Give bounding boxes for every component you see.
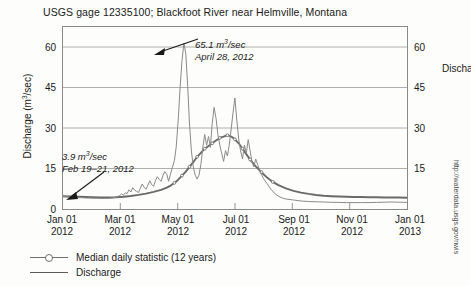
- legend-label-discharge: Discharge: [76, 267, 121, 278]
- x-tick-4-year: 2012: [265, 226, 323, 238]
- annotation-peak-arrow-icon: [150, 36, 200, 58]
- x-tick-6-label: Jan 01: [381, 214, 439, 226]
- x-tick-6-year: 2013: [381, 226, 439, 238]
- x-tick-6: Jan 01 2013: [381, 214, 439, 238]
- y-tick-right-45: 45: [414, 82, 440, 93]
- series-discharge: [63, 43, 407, 203]
- legend-marker-median-icon: [30, 252, 68, 264]
- legend-item-discharge: Discharge: [30, 265, 216, 280]
- x-tick-0-label: Jan 01: [33, 214, 91, 226]
- x-tick-marks: [120, 203, 349, 209]
- annotation-low-value: 3.9 m3/sec: [62, 148, 134, 163]
- annotation-peak-date: April 28, 2012: [195, 51, 254, 63]
- x-tick-2-year: 2012: [149, 226, 207, 238]
- legend: Median daily statistic (12 years) Discha…: [30, 250, 216, 280]
- x-tick-0-year: 2012: [33, 226, 91, 238]
- legend-marker-discharge-icon: [30, 267, 68, 279]
- x-tick-1-label: Mar 01: [91, 214, 149, 226]
- legend-item-median: Median daily statistic (12 years): [30, 250, 216, 265]
- x-tick-1: Mar 01 2012: [91, 214, 149, 238]
- annotation-peak-value-tail: /sec: [228, 39, 245, 50]
- y-tick-right-30: 30: [414, 123, 440, 134]
- annotation-peak-value: 65.1 m3/sec: [195, 36, 254, 51]
- x-tick-2: May 01 2012: [149, 214, 207, 238]
- y-tick-left-45: 45: [30, 82, 56, 93]
- source-url: http://waterdata.usgs.gov/nwis: [453, 160, 460, 254]
- y-tick-right-60: 60: [414, 42, 440, 53]
- chart-title: USGS gage 12335100; Blackfoot River near…: [43, 6, 347, 18]
- x-tick-4-label: Sep 01: [265, 214, 323, 226]
- x-tick-4: Sep 01 2012: [265, 214, 323, 238]
- x-tick-2-label: May 01: [149, 214, 207, 226]
- legend-label-median: Median daily statistic (12 years): [76, 252, 216, 263]
- x-tick-3-label: Jul 01: [207, 214, 265, 226]
- x-tick-5-label: Nov 01: [323, 214, 381, 226]
- x-tick-0: Jan 01 2012: [33, 214, 91, 238]
- annotation-low-value-base: 3.9 m: [62, 151, 86, 162]
- y-tick-left-60: 60: [30, 42, 56, 53]
- chart-root: USGS gage 12335100; Blackfoot River near…: [0, 0, 471, 286]
- x-tick-3: Jul 01 2012: [207, 214, 265, 238]
- y-tick-left-30: 30: [30, 123, 56, 134]
- y-axis-label-right: Discharge (m3/sec): [442, 62, 471, 74]
- annotation-peak: 65.1 m3/sec April 28, 2012: [195, 36, 254, 62]
- y-tick-right-15: 15: [414, 163, 440, 174]
- annotation-low-value-tail: /sec: [90, 151, 107, 162]
- y-tick-left-15: 15: [30, 163, 56, 174]
- x-tick-5: Nov 01 2012: [323, 214, 381, 238]
- annotation-low-arrow-icon: [60, 170, 108, 202]
- x-tick-3-year: 2012: [207, 226, 265, 238]
- x-tick-1-year: 2012: [91, 226, 149, 238]
- x-tick-5-year: 2012: [323, 226, 381, 238]
- y-axis-label-left-sup: 3: [21, 95, 28, 99]
- y-axis-label-right-text: Discharge (m: [442, 63, 471, 74]
